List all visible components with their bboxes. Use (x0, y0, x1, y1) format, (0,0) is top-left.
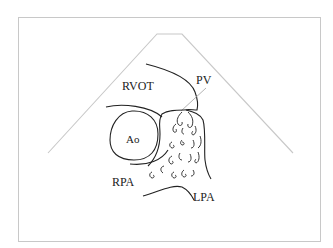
label-ao: Ao (126, 134, 139, 145)
label-lpa: LPA (193, 191, 215, 203)
rpa-lower-wall (143, 186, 194, 200)
main-pa-right-wall (186, 110, 211, 179)
flow-swirls (150, 112, 201, 178)
pv-pointer-line (181, 88, 206, 111)
main-pa-left-wall (148, 110, 184, 166)
ultrasound-sector-outline (48, 34, 293, 153)
label-rpa: RPA (112, 176, 134, 188)
diagram-canvas (0, 0, 333, 248)
label-pv: PV (196, 74, 211, 86)
label-rvot: RVOT (122, 80, 154, 92)
rpa-upper-wall (130, 150, 168, 164)
